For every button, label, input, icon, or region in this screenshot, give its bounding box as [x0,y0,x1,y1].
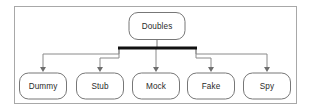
node-mock[interactable]: Mock [133,73,180,99]
arrowhead-icon-spy [264,67,270,72]
arrowhead-icon-mock [153,67,159,72]
node-stub[interactable]: Stub [77,73,124,99]
node-label: Spy [260,82,275,91]
node-group: DoublesDummyStubMockFakeSpy [20,13,291,100]
node-dummy[interactable]: Dummy [20,73,67,99]
arrowhead-icon-fake [208,67,214,72]
node-label: Fake [202,82,221,91]
connector-to-fake [196,48,211,67]
node-root-doubles[interactable]: Doubles [129,13,185,40]
doubles-hierarchy-diagram: DoublesDummyStubMockFakeSpy [0,0,312,112]
diagram-canvas: DoublesDummyStubMockFakeSpy [0,0,312,112]
connector-group [40,40,270,73]
node-spy[interactable]: Spy [244,73,291,99]
node-label: Stub [91,82,109,91]
arrowhead-icon-stub [97,67,103,72]
node-fake[interactable]: Fake [188,73,235,99]
node-label: Mock [146,82,167,91]
connector-to-stub [100,48,119,67]
arrowhead-icon-dummy [40,67,46,72]
node-label: Doubles [142,22,173,31]
generalization-bar [118,47,197,50]
node-label: Dummy [29,82,59,91]
